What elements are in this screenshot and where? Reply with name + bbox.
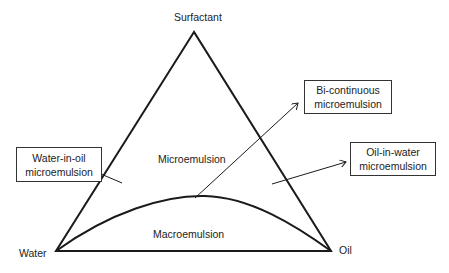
vertex-label-water: Water — [19, 247, 47, 259]
phase-triangle — [56, 32, 331, 251]
ternary-diagram-canvas — [0, 0, 449, 273]
callout-oil-in-water-line1: Oil-in-water — [351, 145, 435, 159]
callout-water-in-oil: Water-in-oil microemulsion — [16, 147, 102, 182]
callout-bicontinuous: Bi-continuous microemulsion — [304, 80, 392, 114]
vertex-label-oil: Oil — [339, 244, 352, 256]
callout-water-in-oil-line2: microemulsion — [17, 165, 101, 179]
phase-boundary-curve — [56, 196, 331, 251]
callout-bicontinuous-line1: Bi-continuous — [305, 83, 391, 97]
callout-oil-in-water: Oil-in-water microemulsion — [350, 142, 436, 176]
callout-oil-in-water-line2: microemulsion — [351, 159, 435, 173]
callout-bicontinuous-line2: microemulsion — [305, 97, 391, 111]
region-label-microemulsion: Microemulsion — [158, 153, 226, 165]
callout-water-in-oil-line1: Water-in-oil — [17, 151, 101, 165]
region-label-macroemulsion: Macroemulsion — [153, 228, 224, 240]
vertex-label-surfactant: Surfactant — [174, 11, 222, 23]
